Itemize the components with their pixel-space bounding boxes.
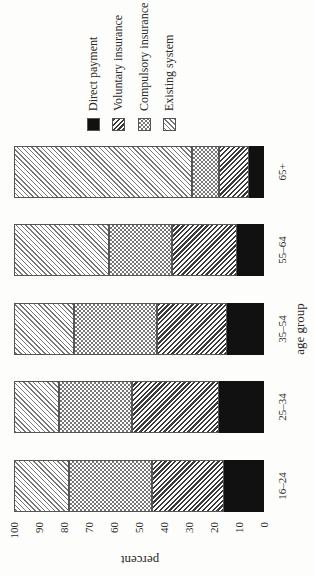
legend-label: Direct payment [86, 37, 101, 111]
x-tick-label: 65+ [276, 146, 288, 198]
legend-swatch-icon [138, 118, 151, 131]
bar-65+ [14, 146, 264, 198]
bar-segment-direct-payment [224, 460, 264, 512]
x-tick-label: 35–54 [276, 303, 288, 355]
y-tick-label: 70 [83, 522, 95, 552]
y-tick-label: 100 [8, 522, 20, 552]
bar-segment-voluntary-insurance [219, 146, 249, 198]
bar-segment-existing-system [14, 224, 109, 276]
y-tick-label: 20 [208, 522, 220, 552]
legend-item: Voluntary insurance [112, 15, 125, 131]
bar-segment-direct-payment [219, 381, 264, 433]
bar-segment-existing-system [14, 303, 74, 355]
bar-16-24 [14, 460, 264, 512]
y-tick-label: 10 [233, 522, 245, 552]
legend-swatch-icon [163, 118, 176, 131]
x-axis-label: age group [292, 146, 308, 512]
legend-item: Compulsory insurance [138, 3, 151, 131]
bar-segment-existing-system [14, 146, 192, 198]
bar-segment-voluntary-insurance [132, 381, 220, 433]
y-tick-label: 80 [58, 522, 70, 552]
bar-segment-voluntary-insurance [152, 460, 225, 512]
stacked-bar-chart: 0102030405060708090100 percent 16–2425–3… [0, 0, 315, 576]
y-tick-label: 0 [258, 522, 270, 552]
bar-segment-compulsory-insurance [192, 146, 220, 198]
legend-label: Compulsory insurance [137, 3, 152, 111]
y-tick-label: 40 [158, 522, 170, 552]
bar-segment-voluntary-insurance [172, 224, 237, 276]
bar-segment-compulsory-insurance [74, 303, 157, 355]
legend-swatch-icon [112, 118, 125, 131]
x-tick-label: 55–64 [276, 224, 288, 276]
bar-55-64 [14, 224, 264, 276]
y-tick-label: 30 [183, 522, 195, 552]
legend-label: Voluntary insurance [111, 15, 126, 111]
bar-segment-compulsory-insurance [59, 381, 132, 433]
bar-segment-voluntary-insurance [157, 303, 227, 355]
bar-segment-direct-payment [249, 146, 264, 198]
bar-segment-existing-system [14, 460, 69, 512]
y-tick-label: 90 [33, 522, 45, 552]
bar-segment-compulsory-insurance [109, 224, 172, 276]
bar-25-34 [14, 381, 264, 433]
bar-35-54 [14, 303, 264, 355]
bar-segment-existing-system [14, 381, 59, 433]
y-tick-label: 50 [133, 522, 145, 552]
legend-item: Direct payment [87, 37, 100, 131]
legend-swatch-icon [87, 118, 100, 131]
bar-segment-compulsory-insurance [69, 460, 152, 512]
y-tick-label: 60 [108, 522, 120, 552]
legend-label: Existing system [162, 35, 177, 111]
bar-segment-direct-payment [227, 303, 265, 355]
legend-item: Existing system [163, 35, 176, 131]
bar-segment-direct-payment [237, 224, 265, 276]
x-tick-label: 25–34 [276, 381, 288, 433]
y-axis-label: percent [121, 552, 159, 568]
x-tick-label: 16–24 [276, 460, 288, 512]
